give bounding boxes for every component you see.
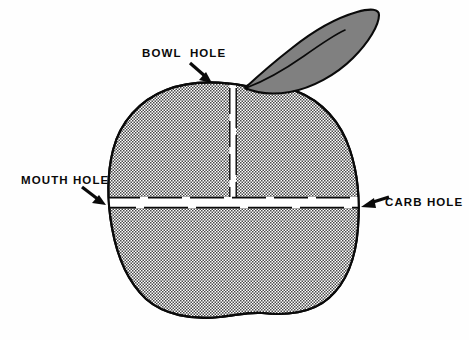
annotation-carb-hole: CARB HOLE <box>361 196 463 208</box>
mouth-hole-arrow-icon <box>82 187 106 205</box>
annotation-bowl-hole: BOWL HOLE <box>142 47 226 83</box>
leaf <box>245 10 379 94</box>
carb-hole-label: CARB HOLE <box>385 196 463 208</box>
leaf-group <box>245 10 379 94</box>
diagram-canvas: BOWL HOLE MOUTH HOLE CARB HOLE <box>0 0 469 340</box>
bowl-hole-label: BOWL HOLE <box>142 47 226 59</box>
annotation-mouth-hole: MOUTH HOLE <box>21 174 109 205</box>
bowl-hole-arrow-icon <box>190 63 212 83</box>
apple-pipe-illustration: BOWL HOLE MOUTH HOLE CARB HOLE <box>0 0 469 340</box>
mouth-hole-label: MOUTH HOLE <box>21 174 109 186</box>
horizontal-mouth-carb-channel <box>105 197 365 208</box>
